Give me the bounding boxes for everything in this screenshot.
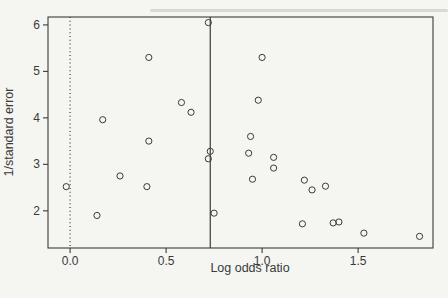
x-tick-label: 1.5 [350, 254, 367, 268]
data-point [94, 212, 100, 218]
data-point [144, 184, 150, 190]
data-point [361, 230, 367, 236]
data-point [146, 54, 152, 60]
data-point [211, 210, 217, 216]
data-point [309, 187, 315, 193]
data-point [246, 150, 252, 156]
plot-canvas: Log odds ratio 1/standard error 0.00.51.… [0, 0, 448, 298]
data-point [146, 138, 152, 144]
data-point [63, 184, 69, 190]
plot-frame [48, 17, 433, 248]
data-point [178, 99, 184, 105]
data-point [259, 54, 265, 60]
data-point [336, 219, 342, 225]
data-point [299, 221, 305, 227]
scan-artifact-line [150, 9, 448, 12]
x-axis-title: Log odds ratio [210, 261, 289, 275]
data-point [322, 183, 328, 189]
data-point [247, 133, 253, 139]
y-tick-label: 3 [33, 157, 40, 171]
x-tick-label: 0.0 [62, 254, 79, 268]
data-point [188, 109, 194, 115]
y-tick-label: 6 [33, 18, 40, 32]
data-point [117, 173, 123, 179]
x-tick-label: 0.5 [158, 254, 175, 268]
x-tick-label: 1.0 [254, 254, 271, 268]
y-tick-label: 4 [33, 111, 40, 125]
data-point [255, 97, 261, 103]
y-tick-label: 2 [33, 204, 40, 218]
data-point [271, 154, 277, 160]
y-axis-title: 1/standard error [2, 88, 16, 177]
funnel-plot-figure: Log odds ratio 1/standard error 0.00.51.… [0, 0, 448, 298]
data-point [249, 176, 255, 182]
data-point [271, 165, 277, 171]
data-point [301, 177, 307, 183]
data-point [100, 117, 106, 123]
y-tick-label: 5 [33, 64, 40, 78]
data-point [416, 233, 422, 239]
plot-layers: 0.00.51.01.523456 [33, 17, 433, 268]
data-point [330, 220, 336, 226]
